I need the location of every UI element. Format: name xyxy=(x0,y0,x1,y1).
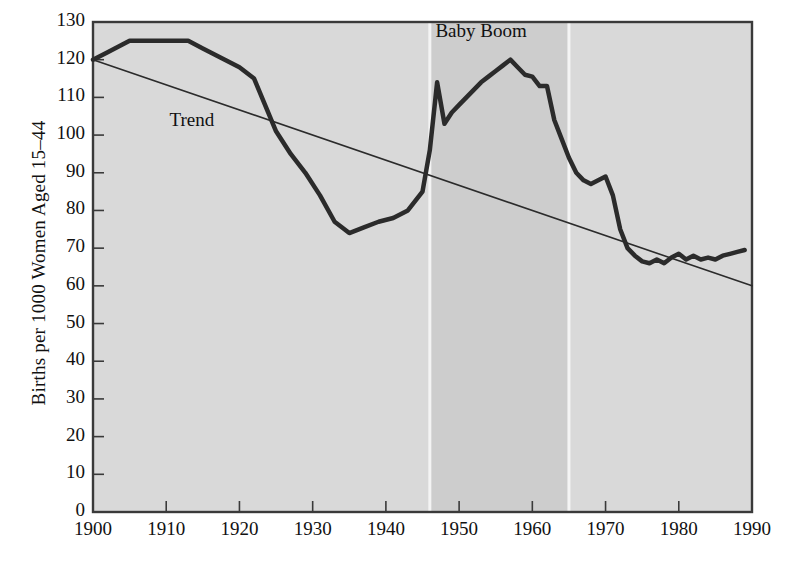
y-tick-label: 80 xyxy=(66,197,85,219)
plot-background xyxy=(93,22,752,512)
y-tick-label: 90 xyxy=(66,160,85,182)
x-tick-label: 1910 xyxy=(136,518,196,540)
y-tick-label: 100 xyxy=(57,122,86,144)
y-tick-label: 130 xyxy=(57,9,86,31)
x-tick-label: 1930 xyxy=(283,518,343,540)
x-tick-label: 1970 xyxy=(576,518,636,540)
x-tick-label: 1920 xyxy=(209,518,269,540)
y-tick-label: 120 xyxy=(57,47,86,69)
y-tick-label: 70 xyxy=(66,235,85,257)
x-tick-label: 1960 xyxy=(502,518,562,540)
annotation-trend: Trend xyxy=(169,109,214,131)
y-tick-label: 30 xyxy=(66,386,85,408)
chart-figure: Births per 1000 Women Aged 15–44 0102030… xyxy=(0,0,786,568)
x-tick-label: 1900 xyxy=(63,518,123,540)
y-axis-title: Births per 1000 Women Aged 15–44 xyxy=(28,28,50,498)
chart-canvas xyxy=(0,0,786,568)
y-tick-label: 20 xyxy=(66,424,85,446)
y-tick-label: 50 xyxy=(66,311,85,333)
x-tick-label: 1940 xyxy=(356,518,416,540)
y-tick-label: 40 xyxy=(66,348,85,370)
x-tick-label: 1980 xyxy=(649,518,709,540)
x-tick-label: 1990 xyxy=(722,518,782,540)
annotation-baby-boom: Baby Boom xyxy=(435,20,526,42)
x-tick-label: 1950 xyxy=(429,518,489,540)
y-tick-label: 10 xyxy=(66,461,85,483)
y-tick-label: 110 xyxy=(57,84,85,106)
y-tick-label: 60 xyxy=(66,273,85,295)
